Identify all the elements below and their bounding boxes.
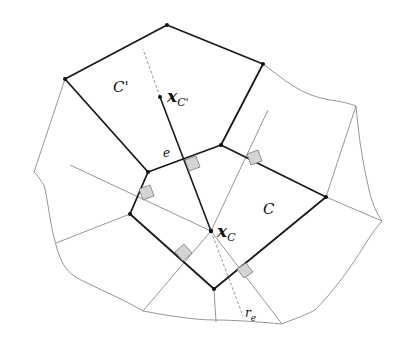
label-x-c: xC bbox=[217, 221, 236, 244]
label-x-c-main: x bbox=[217, 221, 227, 241]
label-x-c-prime-main: x bbox=[167, 86, 177, 106]
label-cell-c-prime: C' bbox=[113, 78, 129, 96]
label-x-c-sub: C bbox=[227, 231, 235, 244]
diagram-canvas: C' xC' e C xC re bbox=[0, 0, 405, 343]
label-cell-c: C bbox=[263, 200, 274, 218]
label-edge-e: e bbox=[163, 146, 170, 160]
mesh-drawing bbox=[0, 0, 405, 343]
label-ray-sub: e bbox=[251, 313, 256, 323]
label-x-c-prime-sub: C' bbox=[177, 96, 188, 109]
label-ray-r-e: re bbox=[245, 302, 256, 323]
label-x-c-prime: xC' bbox=[167, 86, 189, 109]
